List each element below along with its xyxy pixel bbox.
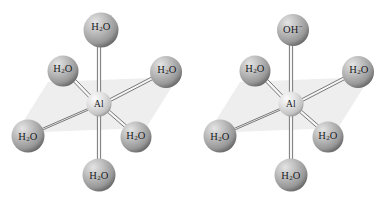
ligand-sphere-bottom: [275, 159, 308, 192]
ligand-sphere-upper-right: [150, 56, 182, 88]
structure-pentaaqua-hydroxido-aluminium: OH− H2O H2O H2O H2O H2O Al: [192, 0, 385, 204]
ligand-sphere-upper-left: [48, 56, 79, 87]
ligand-sphere-lower-right: [313, 122, 344, 153]
ligand-sphere-lower-left: [204, 120, 237, 153]
ligand-sphere-top: [277, 14, 309, 46]
center-sphere-aluminium: [87, 92, 112, 117]
ligand-sphere-lower-right: [121, 122, 152, 153]
ligand-sphere-top: [84, 13, 119, 48]
center-sphere-aluminium: [279, 92, 304, 117]
ligand-sphere-lower-left: [12, 120, 45, 153]
ligand-sphere-upper-left: [240, 56, 271, 87]
structure-hexaaqua-aluminium: H2O H2O H2O H2O H2O H2O Al: [0, 0, 193, 204]
structure-left-graphics: [0, 0, 193, 204]
ligand-sphere-bottom: [83, 159, 116, 192]
ligand-sphere-upper-right: [342, 56, 374, 88]
structure-right-graphics: [192, 0, 385, 204]
molecular-diagram: H2O H2O H2O H2O H2O H2O Al: [0, 0, 385, 204]
